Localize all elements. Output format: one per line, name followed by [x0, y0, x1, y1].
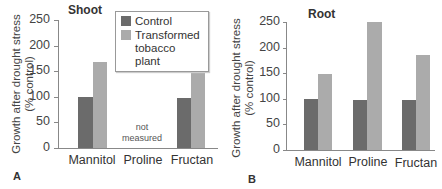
bar-root-proline-transformed: [367, 22, 382, 150]
legend-item-control: Control: [121, 15, 203, 28]
y-tick-label: 250: [250, 14, 280, 28]
chart-title-shoot: Shoot: [68, 3, 102, 17]
bar-root-mannitol-control: [304, 99, 318, 150]
x-tick-label: Fructan: [162, 153, 222, 167]
y-tick-label: 150: [250, 65, 280, 79]
y-tick-label: 250: [20, 12, 50, 26]
bar-root-proline-control: [353, 100, 367, 150]
chart-title-root: Root: [308, 7, 335, 21]
panel-letter-b: B: [248, 173, 256, 185]
bar-shoot-fructan-control: [177, 98, 191, 148]
y-axis-shoot: [58, 20, 59, 149]
y-tick-label: 100: [250, 91, 280, 105]
y-tick-label: 0: [250, 142, 280, 156]
bar-root-mannitol-transformed: [318, 74, 332, 150]
y-tick-label: 0: [20, 140, 50, 154]
panel-letter-a: A: [13, 170, 21, 182]
y-tick-label: 200: [20, 38, 50, 52]
y-axis-label-root: Growth after drought stress (% control): [230, 13, 256, 163]
bar-root-fructan-transformed: [416, 55, 430, 150]
panel-root: Root Growth after drought stress (% cont…: [218, 0, 435, 189]
bar-shoot-mannitol-transformed: [93, 62, 107, 148]
y-tick-label: 50: [20, 114, 50, 128]
bar-shoot-mannitol-control: [78, 97, 93, 148]
x-tick-label: Fructan: [386, 156, 442, 170]
transformed-swatch: [121, 30, 131, 40]
y-axis-root: [286, 22, 287, 151]
panel-shoot: Shoot Growth after drought stress (% con…: [0, 0, 218, 189]
bar-shoot-fructan-transformed: [191, 71, 205, 148]
y-tick-label: 150: [20, 63, 50, 77]
not-measured-note: not measured: [112, 122, 172, 144]
legend: Control Transformed tobacco plant: [115, 11, 209, 72]
y-tick-label: 100: [20, 89, 50, 103]
y-tick-label: 50: [250, 116, 280, 130]
control-swatch: [121, 16, 131, 26]
x-axis-shoot: [58, 148, 218, 149]
y-tick-label: 200: [250, 40, 280, 54]
x-axis-root: [286, 150, 435, 151]
bar-root-fructan-control: [402, 100, 416, 150]
legend-item-transformed: Transformed tobacco plant: [121, 29, 203, 68]
y-axis-label-shoot: Growth after drought stress (% control): [10, 9, 36, 159]
